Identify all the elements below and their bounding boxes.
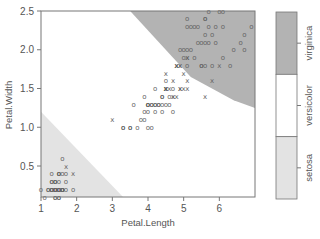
versicolor-point: o <box>132 101 136 109</box>
virginica-point: o <box>203 31 207 39</box>
versicolor-point: o <box>121 124 125 132</box>
legend-label-setosa: setosa <box>303 153 314 182</box>
setosa-point: x <box>71 170 75 178</box>
setosa-point: o <box>53 186 57 194</box>
legend-label-virginica: virginica <box>303 25 314 61</box>
y-tick-label: 0.5 <box>20 161 34 172</box>
versicolor-point: o <box>164 77 168 85</box>
virginica-point: o <box>203 15 207 23</box>
versicolor-point: o <box>153 108 157 116</box>
virginica-point: o <box>214 23 218 31</box>
svm-classification-plot: oooooooooooooooooooooooxoooooooooooooooo… <box>0 0 320 239</box>
virginica-point: o <box>185 62 189 70</box>
versicolor-point: x <box>110 116 114 124</box>
legend-label-versicolor: versicolor <box>303 85 314 126</box>
virginica-point: x <box>203 93 207 101</box>
versicolor-point: o <box>149 101 153 109</box>
virginica-point: x <box>217 62 221 70</box>
versicolor-point: o <box>167 93 171 101</box>
virginica-point: x <box>210 77 214 85</box>
x-tick-label: 3 <box>110 203 116 214</box>
versicolor-point: o <box>171 108 175 116</box>
legend-swatch-virginica <box>276 12 297 74</box>
versicolor-point: x <box>174 93 178 101</box>
virginica-point: o <box>242 31 246 39</box>
legend-swatch-versicolor <box>276 74 297 136</box>
x-tick-label: 1 <box>38 203 44 214</box>
x-tick-label: 2 <box>74 203 80 214</box>
virginica-point: o <box>210 62 214 70</box>
virginica-point: x <box>185 85 189 93</box>
y-axis-title: Petal.Width <box>3 81 14 130</box>
x-tick-label: 6 <box>217 203 223 214</box>
virginica-point: o <box>199 62 203 70</box>
virginica-point: x <box>178 62 182 70</box>
virginica-point: o <box>221 54 225 62</box>
x-tick-label: 4 <box>145 203 151 214</box>
setosa-point: o <box>71 186 75 194</box>
versicolor-point: o <box>157 101 161 109</box>
virginica-point: o <box>203 39 207 47</box>
y-tick-label: 2.0 <box>20 44 34 55</box>
versicolor-point: o <box>153 85 157 93</box>
legend-swatch-setosa <box>276 137 297 199</box>
virginica-point: x <box>174 62 178 70</box>
y-tick-label: 1.0 <box>20 122 34 133</box>
versicolor-point: o <box>149 124 153 132</box>
virginica-point: o <box>189 46 193 54</box>
versicolor-point: o <box>146 108 150 116</box>
setosa-point: o <box>60 155 64 163</box>
virginica-point: o <box>192 54 196 62</box>
y-tick-label: 2.5 <box>20 6 34 17</box>
virginica-point: o <box>242 46 246 54</box>
versicolor-point: o <box>160 108 164 116</box>
virginica-point: o <box>214 39 218 47</box>
virginica-point: o <box>221 23 225 31</box>
versicolor-point: o <box>128 124 132 132</box>
legend-colorbar: virginicaversicolorsetosa <box>276 12 314 199</box>
virginica-point: o <box>249 23 253 31</box>
virginica-point: o <box>196 39 200 47</box>
y-tick-label: 1.5 <box>20 83 34 94</box>
x-axis-title: Petal.Length <box>121 217 174 228</box>
virginica-point: o <box>196 23 200 31</box>
plot-area: oooooooooooooooooooooooxoooooooooooooooo… <box>39 8 255 202</box>
virginica-point: o <box>231 46 235 54</box>
versicolor-point: o <box>135 124 139 132</box>
x-tick-label: 5 <box>181 203 187 214</box>
virginica-point: x <box>164 70 168 78</box>
virginica-point: o <box>189 23 193 31</box>
virginica-point: o <box>228 62 232 70</box>
